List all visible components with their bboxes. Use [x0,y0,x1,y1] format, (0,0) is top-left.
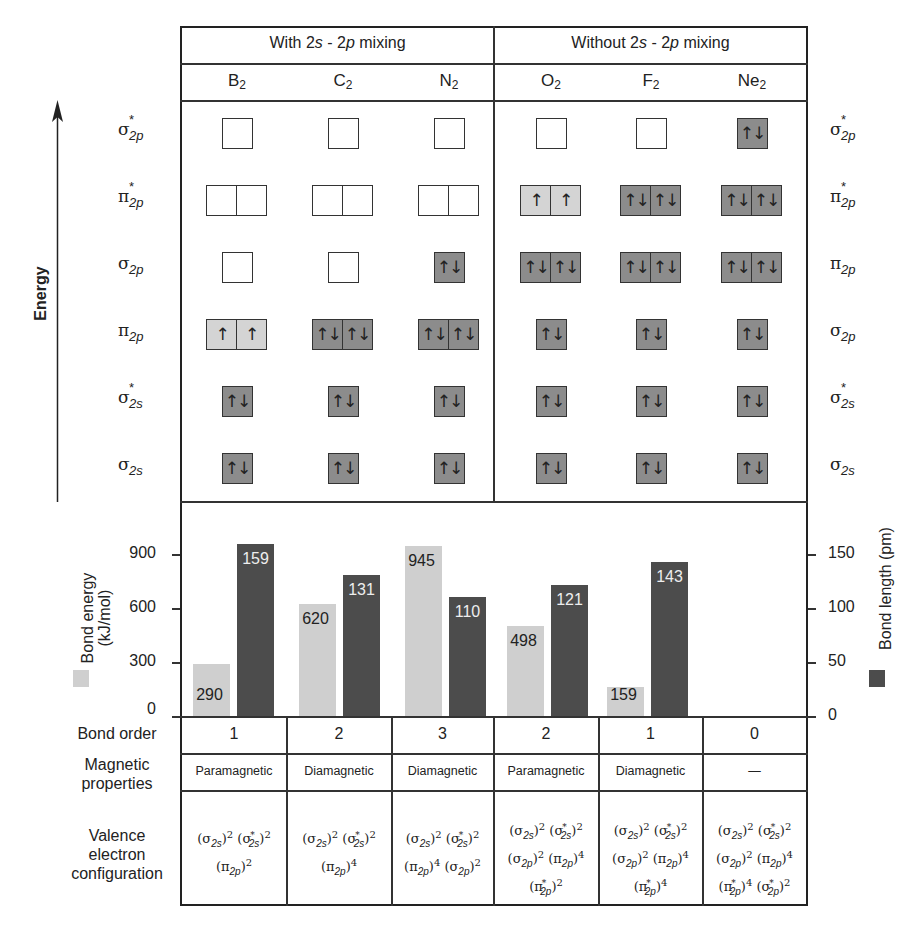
bond-length-value-f2: 143 [651,568,688,586]
orbital-label: σ2s [118,454,168,474]
orbital-box-n2: ↑↓ [434,453,465,484]
star-mark: * [841,112,846,127]
molecule-header-ne2: Ne2 [712,71,792,92]
magnetic-property-n2: Diamagnetic [392,764,493,778]
magnetic-property-f2: Diamagnetic [599,764,702,778]
bond-energy-value-o2: 498 [505,632,542,650]
orbital-box-b2: ↑↓ [222,453,253,484]
orbital-label: σ2s [830,454,880,474]
orbital-pair-c2 [312,185,373,216]
orbital-label: π2p [118,320,168,340]
left-tick: 0 [116,700,156,718]
tick-mark [808,608,816,610]
orbital-box [206,185,237,216]
bond-order-ne2: 0 [703,725,806,743]
right-tick: 0 [828,706,868,724]
star-mark: * [129,380,134,395]
bond-length-value-n2: 110 [449,603,486,621]
orbital-box-f2: ↑↓ [636,453,667,484]
orbital-subscript: 2s [129,396,143,411]
orbital-label: π*2p [830,186,880,206]
left-tick: 600 [116,598,156,616]
bond-energy-value-b2: 290 [191,686,228,704]
orbital-box: ↑↓ [721,185,752,216]
magnetic-property-b2: Paramagnetic [182,764,286,778]
molecule-header-n2: N2 [409,71,489,92]
orbital-box: ↑↓ [620,252,651,283]
bond-length-value-c2: 131 [343,581,380,599]
orbital-box: ↑↓ [751,185,782,216]
orbital-label: π*2p [118,186,168,206]
orbital-subscript: 2p [129,329,143,344]
orbital-box: ↑↓ [751,252,782,283]
orbital-subscript: 2p [841,329,855,344]
orbital-pair-ne2: ↑↓↑↓ [721,252,782,283]
orbital-box [448,185,479,216]
orbital-box: ↑↓ [520,252,551,283]
electron-configuration-ne2: (σ2s)2 (σ*2s)2(σ2p)2 (π2p)4(π*2p)4 (σ*2p… [703,817,806,901]
right-tick: 100 [828,598,868,616]
bond-order-o2: 2 [494,725,598,743]
orbital-box-f2: ↑↓ [636,319,667,350]
orbital-box: ↑↓ [418,319,449,350]
tick-mark [808,554,816,556]
orbital-pair-n2: ↑↓↑↓ [418,319,479,350]
bond-energy-value-n2: 945 [403,552,440,570]
bond-energy-value-c2: 620 [297,610,334,628]
bond-order-f2: 1 [599,725,702,743]
orbital-box-b2 [222,252,253,283]
left-tick: 300 [116,652,156,670]
row-label-magnetic: Magnetic properties [62,755,172,793]
orbital-label: σ*2s [830,387,880,407]
orbital-subscript: 2p [841,128,855,143]
orbital-box: ↑↓ [342,319,373,350]
star-mark: * [129,112,134,127]
orbital-box [312,185,343,216]
orbital-label: σ2p [830,320,880,340]
orbital-pair-c2: ↑↓↑↓ [312,319,373,350]
orbital-subscript: 2p [841,195,855,210]
tick-mark [172,608,180,610]
orbital-box: ↑↓ [650,252,681,283]
orbital-pair-f2: ↑↓↑↓ [620,185,681,216]
bond-order-b2: 1 [182,725,286,743]
orbital-box [342,185,373,216]
orbital-box: ↑↓ [550,252,581,283]
orbital-pair-b2 [206,185,267,216]
bond-energy-value-f2: 159 [605,686,642,704]
legend-swatch-bond-energy [73,670,89,687]
electron-configuration-f2: (σ2s)2 (σ*2s)2(σ2p)2 (π2p)4(π*2p)4 [599,817,702,901]
orbital-box-f2: ↑↓ [636,386,667,417]
magnetic-property-ne2: — [703,764,806,778]
orbital-box-ne2: ↑↓ [737,319,768,350]
bond-length-value-o2: 121 [551,591,588,609]
bond-order-c2: 2 [287,725,391,743]
orbital-pair-f2: ↑↓↑↓ [620,252,681,283]
molecule-header-f2: F2 [611,71,691,92]
orbital-pair-n2 [418,185,479,216]
orbital-subscript: 2s [129,463,143,478]
orbital-label: σ*2s [118,387,168,407]
orbital-pair-b2: ↑↑ [206,319,267,350]
star-mark: * [841,179,846,194]
orbital-pair-o2: ↑↑ [520,185,581,216]
orbital-box-o2: ↑↓ [536,319,567,350]
orbital-box-c2: ↑↓ [328,453,359,484]
star-mark: * [129,179,134,194]
orbital-box-ne2: ↑↓ [737,386,768,417]
orbital-box: ↑ [550,185,581,216]
orbital-box: ↑↓ [448,319,479,350]
orbital-label: σ2p [118,253,168,273]
molecule-header-c2: C2 [303,71,383,92]
orbital-box-n2: ↑↓ [434,386,465,417]
orbital-subscript: 2p [129,262,143,277]
orbital-label: σ*2p [830,119,880,139]
orbital-box [418,185,449,216]
orbital-box-o2: ↑↓ [536,386,567,417]
orbital-box-n2: ↑↓ [434,252,465,283]
orbital-box-ne2: ↑↓ [737,453,768,484]
orbital-box-b2: ↑↓ [222,386,253,417]
row-label-configuration: Valence electron configuration [56,826,178,883]
orbital-box: ↑ [206,319,237,350]
group-header-with-mixing: With 2s - 2p mixing [182,34,493,52]
